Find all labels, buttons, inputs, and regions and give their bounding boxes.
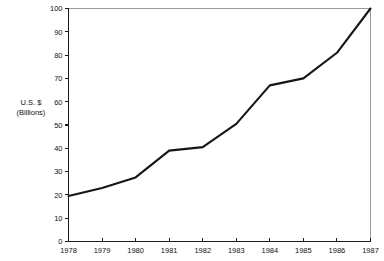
y-axis-tick-labels: 0102030405060708090100 bbox=[50, 4, 63, 246]
x-tick-label: 1980 bbox=[127, 246, 144, 255]
y-tick-label: 10 bbox=[54, 214, 62, 223]
plot-frame bbox=[69, 9, 371, 242]
y-tick-label: 20 bbox=[54, 191, 62, 200]
x-tick-label: 1986 bbox=[329, 246, 346, 255]
x-tick-label: 1982 bbox=[194, 246, 211, 255]
y-tick-label: 50 bbox=[54, 121, 62, 130]
y-tick-label: 70 bbox=[54, 74, 62, 83]
chart-canvas: 0102030405060708090100 19781979198019811… bbox=[0, 0, 384, 261]
x-tick-label: 1983 bbox=[228, 246, 245, 255]
y-tick-label: 60 bbox=[54, 98, 62, 107]
series-line bbox=[69, 9, 371, 197]
y-tick-label: 80 bbox=[54, 51, 62, 60]
y-tick-label: 100 bbox=[50, 4, 63, 13]
x-axis-ticks bbox=[69, 238, 371, 242]
x-tick-label: 1981 bbox=[161, 246, 178, 255]
data-series bbox=[69, 9, 371, 197]
x-tick-label: 1979 bbox=[94, 246, 111, 255]
y-tick-label: 40 bbox=[54, 144, 62, 153]
x-tick-label: 1985 bbox=[295, 246, 312, 255]
x-tick-label: 1978 bbox=[60, 246, 77, 255]
plot-axes bbox=[69, 9, 371, 242]
y-tick-label: 30 bbox=[54, 167, 62, 176]
line-chart: U.S. $(Billions) 0102030405060708090100 … bbox=[0, 0, 384, 261]
x-tick-label: 1987 bbox=[362, 246, 379, 255]
y-tick-label: 90 bbox=[54, 28, 62, 37]
x-axis-tick-labels: 1978197919801981198219831984198519861987 bbox=[60, 246, 379, 255]
x-tick-label: 1984 bbox=[261, 246, 278, 255]
